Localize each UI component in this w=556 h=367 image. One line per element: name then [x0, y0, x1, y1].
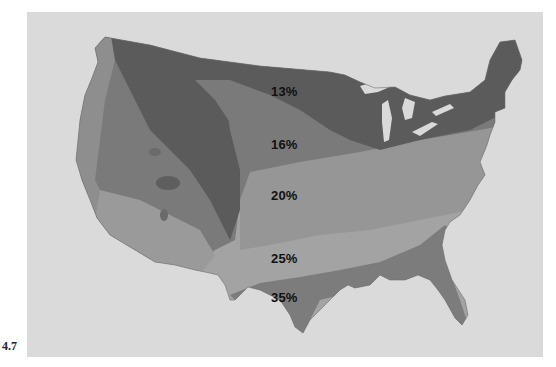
us-zone-map: [0, 0, 556, 367]
zone-pocket-2: [160, 209, 168, 221]
zone-label-25: 25%: [271, 251, 298, 266]
figure-number: 4.7: [2, 339, 17, 354]
zone-label-35: 35%: [271, 290, 298, 305]
zone-pocket-3: [149, 148, 161, 156]
zone-label-20: 20%: [271, 188, 298, 203]
zone-label-13: 13%: [271, 84, 298, 99]
zone-label-16: 16%: [271, 137, 298, 152]
zone-pocket-1: [156, 176, 180, 190]
